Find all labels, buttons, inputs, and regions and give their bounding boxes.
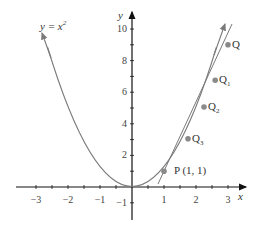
- y-tick-label: −1: [116, 197, 127, 208]
- parabola-diagram: −3 −2 −1 1 2 3 10 8 6 4 2 −1 y x P (1, 1…: [0, 0, 256, 229]
- y-tick-label: 10: [117, 23, 127, 34]
- y-tick-label: 2: [122, 149, 127, 160]
- point-q1-label: Q1: [219, 73, 231, 88]
- x-tick-label: −3: [31, 194, 42, 205]
- point-q1: [212, 77, 218, 83]
- curve-equation-label: y = x2: [39, 19, 67, 32]
- x-tick-label: 3: [226, 194, 231, 205]
- x-tick-label: −2: [63, 194, 74, 205]
- x-tick-label: −1: [95, 194, 106, 205]
- point-q: [225, 42, 231, 48]
- point-q2: [201, 104, 207, 110]
- x-tick-label: 1: [162, 194, 167, 205]
- x-axis-label: x: [237, 190, 243, 202]
- y-tick-label: 6: [122, 86, 127, 97]
- curve-left-arrow: [42, 33, 51, 58]
- point-p-label: P (1, 1): [174, 164, 207, 177]
- secant-line: [158, 24, 232, 184]
- y-tick-label: 4: [122, 118, 127, 129]
- y-axis-label: y: [117, 9, 123, 21]
- point-q3: [185, 136, 191, 142]
- y-axis: [130, 12, 134, 220]
- point-q-label: Q: [232, 38, 240, 50]
- y-tick-label: 8: [122, 55, 127, 66]
- point-p: [161, 168, 167, 174]
- x-tick-label: 2: [194, 194, 199, 205]
- point-q2-label: Q2: [208, 100, 220, 115]
- point-q3-label: Q3: [192, 132, 204, 147]
